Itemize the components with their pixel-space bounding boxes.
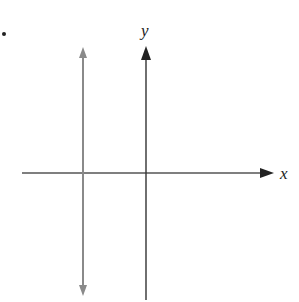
y-axis-arrow-icon bbox=[141, 46, 151, 60]
y-axis-label: y bbox=[139, 21, 149, 40]
vertical-line bbox=[79, 47, 87, 296]
vertical-line-bottom-arrow-icon bbox=[79, 285, 87, 296]
bullet-dot bbox=[2, 32, 6, 36]
coordinate-plane: x y bbox=[0, 0, 299, 302]
x-axis bbox=[22, 168, 274, 178]
vertical-line-top-arrow-icon bbox=[79, 47, 87, 58]
x-axis-arrow-icon bbox=[260, 168, 274, 178]
x-axis-label: x bbox=[279, 164, 288, 183]
